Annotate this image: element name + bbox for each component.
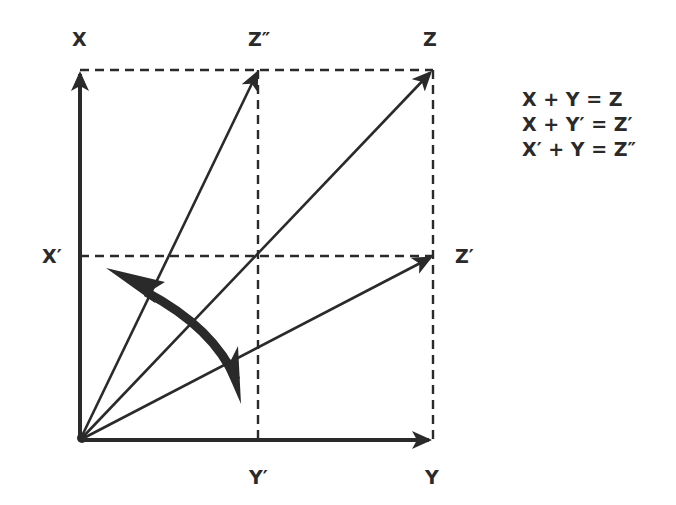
equations: X + Y = Z X + Y′ = Z′ X′ + Y = Z″ bbox=[522, 88, 636, 160]
label-z-prime: Z′ bbox=[455, 245, 474, 267]
label-x-prime: X′ bbox=[42, 245, 62, 267]
equation-2: X + Y′ = Z′ bbox=[522, 113, 633, 135]
label-z: Z bbox=[423, 28, 437, 50]
rotation-arrowhead-lower bbox=[218, 346, 241, 404]
rotation-arrow bbox=[106, 268, 241, 404]
label-y: Y bbox=[424, 466, 439, 488]
equation-1: X + Y = Z bbox=[522, 88, 622, 110]
equation-3: X′ + Y = Z″ bbox=[522, 138, 636, 160]
label-z-double-prime: Z″ bbox=[248, 28, 271, 50]
label-y-prime: Y′ bbox=[248, 466, 268, 488]
label-x: X bbox=[72, 28, 87, 50]
vector-diagram: X Z″ Z X′ Z′ Y′ Y X + Y = Z X + Y′ = Z′ … bbox=[0, 0, 676, 505]
